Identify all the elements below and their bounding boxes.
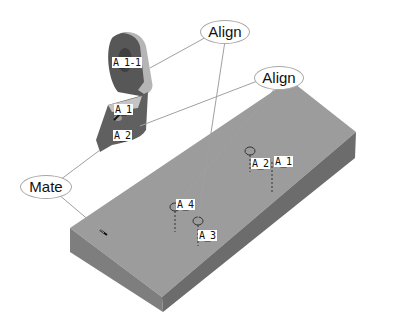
tag-plate-a3: A_3 [198, 230, 217, 241]
assembly-drawing [0, 0, 399, 326]
tag-bracket-a1: A_1 [114, 104, 133, 115]
align-callout-1: Align [200, 20, 250, 44]
tag-bracket-a1-1: A_1-1 [112, 57, 142, 68]
tag-plate-a2: A_2 [251, 158, 270, 169]
tag-bracket-a2: A_2 [113, 130, 132, 141]
mate-callout: Mate [20, 175, 72, 199]
tag-plate-a4: A_4 [176, 199, 195, 210]
align-callout-2: Align [254, 66, 304, 90]
tag-plate-a1: A_1 [274, 156, 293, 167]
assembly-diagram: Align Align Mate A_1-1 A_1 A_2 A_2 A_1 A… [0, 0, 399, 326]
